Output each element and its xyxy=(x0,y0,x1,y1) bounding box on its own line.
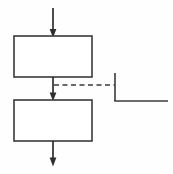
process-box-top[interactable] xyxy=(14,36,92,77)
outbound-arrow-head xyxy=(50,158,57,167)
side-bracket xyxy=(114,73,168,101)
inbound-arrow xyxy=(50,8,57,38)
diagram-canvas xyxy=(0,0,173,174)
outbound-arrow xyxy=(50,141,57,167)
flowchart-diagram xyxy=(0,0,173,174)
process-box-bottom[interactable] xyxy=(14,100,92,141)
between-boxes-arrow xyxy=(50,77,57,101)
